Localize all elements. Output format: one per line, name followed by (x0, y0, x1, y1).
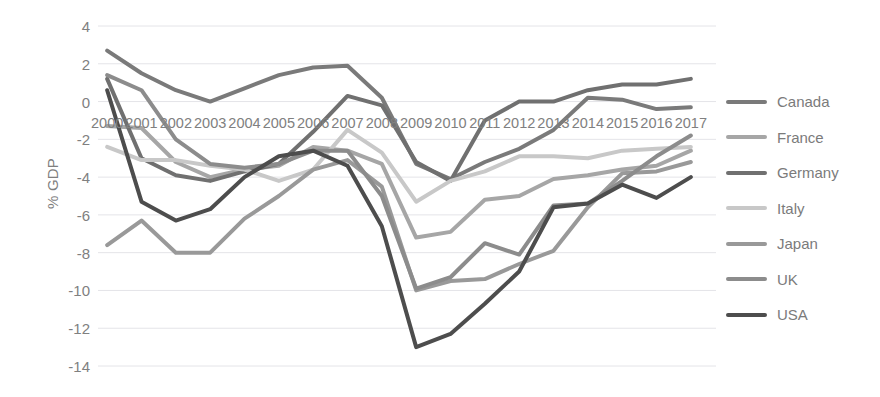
x-axis-tick-labels: 2000200120022003200420052006200720082009… (98, 0, 716, 397)
x-axis-tick-label: 2017 (675, 116, 707, 131)
legend-label: USA (777, 306, 808, 323)
legend-item-canada[interactable]: Canada (726, 84, 876, 120)
x-axis-tick-label: 2005 (263, 116, 295, 131)
legend-swatch-icon (726, 206, 767, 210)
x-axis-tick-label: 2000 (91, 116, 123, 131)
legend-label: Italy (777, 200, 805, 217)
legend-item-usa[interactable]: USA (726, 297, 876, 333)
legend-label: UK (777, 271, 798, 288)
legend-swatch-icon (726, 171, 767, 175)
legend-item-italy[interactable]: Italy (726, 191, 876, 227)
y-axis-tick-label: 2 (44, 56, 90, 71)
y-axis-tick-label: 0 (44, 94, 90, 109)
y-axis-tick-label: -6 (44, 207, 90, 222)
legend-label: France (777, 129, 824, 146)
x-axis-tick-label: 2004 (228, 116, 260, 131)
legend-label: Japan (777, 235, 818, 252)
legend-swatch-icon (726, 313, 767, 317)
x-axis-tick-label: 2007 (331, 116, 363, 131)
legend-swatch-icon (726, 135, 767, 139)
x-axis-tick-label: 2006 (297, 116, 329, 131)
y-axis-tick-label: 4 (44, 19, 90, 34)
legend-swatch-icon (726, 242, 767, 246)
x-axis-tick-label: 2002 (160, 116, 192, 131)
legend: CanadaFranceGermanyItalyJapanUKUSA (726, 84, 876, 333)
legend-item-uk[interactable]: UK (726, 262, 876, 298)
y-axis-tick-label: -14 (44, 359, 90, 374)
legend-swatch-icon (726, 100, 767, 104)
legend-item-france[interactable]: France (726, 120, 876, 156)
y-axis-tick-label: -8 (44, 245, 90, 260)
y-axis-tick-labels: 420-2-4-6-8-10-12-14 (32, 0, 90, 397)
x-axis-tick-label: 2011 (469, 116, 500, 131)
x-axis-tick-label: 2008 (366, 116, 398, 131)
legend-item-japan[interactable]: Japan (726, 226, 876, 262)
x-axis-tick-label: 2014 (572, 116, 604, 131)
plot-area: 2000200120022003200420052006200720082009… (98, 0, 716, 397)
x-axis-tick-label: 2015 (606, 116, 638, 131)
y-axis-tick-label: -10 (44, 283, 90, 298)
x-axis-tick-label: 2010 (434, 116, 466, 131)
legend-item-germany[interactable]: Germany (726, 155, 876, 191)
legend-label: Germany (777, 164, 839, 181)
x-axis-tick-label: 2013 (537, 116, 569, 131)
x-axis-tick-label: 2012 (503, 116, 535, 131)
y-axis-tick-label: -2 (44, 132, 90, 147)
legend-swatch-icon (726, 277, 767, 281)
x-axis-tick-label: 2001 (125, 116, 157, 131)
y-axis-tick-label: -4 (44, 170, 90, 185)
legend-label: Canada (777, 93, 830, 110)
y-axis-tick-label: -12 (44, 321, 90, 336)
x-axis-tick-label: 2003 (194, 116, 226, 131)
x-axis-tick-label: 2009 (400, 116, 432, 131)
x-axis-tick-label: 2016 (640, 116, 672, 131)
line-chart: % GDP 420-2-4-6-8-10-12-14 2000200120022… (0, 0, 880, 397)
